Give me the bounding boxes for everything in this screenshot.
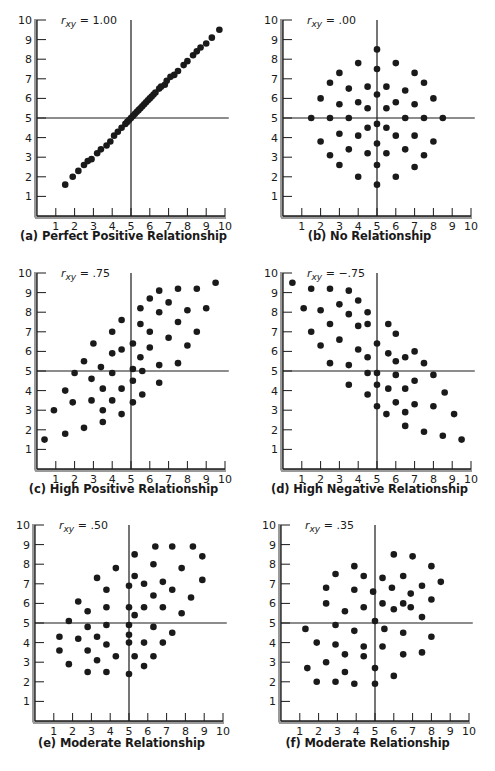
data-point [141,639,148,646]
panel-d: 1234567891012345678910rxy = −.75 (d) Hig… [246,253,493,510]
data-point [351,680,358,687]
data-point [327,115,334,122]
data-point [372,665,379,672]
data-point [94,657,101,664]
data-point [75,635,82,642]
data-point [391,606,398,613]
data-point [364,391,371,398]
panel-a: 1234567891012345678910rxy = 1.00 (a) Per… [0,0,247,257]
data-point [336,130,343,137]
data-point [428,596,435,603]
data-point [118,411,125,418]
data-point [383,83,390,90]
panel-b: 1234567891012345678910rxy = .00 (b) No R… [246,0,493,257]
data-point [393,174,400,181]
y-tick-label: 10 [18,267,32,280]
y-tick-label: 5 [271,365,278,378]
data-point [113,653,120,660]
data-point [360,653,367,660]
y-tick-label: 4 [271,132,278,145]
correlation-label: rxy = −.75 [307,267,365,282]
data-point [75,168,82,175]
panel-f: 1234567891012345678910rxy = .35 (f) Mode… [244,505,491,762]
data-point [169,543,176,550]
y-tick-label: 1 [269,695,276,708]
data-point [402,115,409,122]
correlation-label: rxy = .75 [61,267,110,282]
data-point [175,360,182,367]
y-tick-label: 6 [269,597,276,610]
y-tick-label: 5 [25,365,32,378]
scatter-plot-c: 1234567891012345678910rxy = .75 [0,253,247,510]
data-point [385,321,392,328]
data-point [156,362,163,369]
data-point [402,146,409,153]
data-point [411,401,418,408]
data-point [103,669,110,676]
data-point [98,146,105,153]
data-point [374,162,381,169]
y-tick-label: 10 [16,519,30,532]
data-point [346,287,353,294]
data-point [428,563,435,570]
data-point [184,342,191,349]
data-point [139,368,146,375]
data-point [137,305,144,312]
data-point [364,354,371,361]
data-point [336,101,343,108]
data-point [126,582,133,589]
data-point [355,174,362,181]
data-point [409,553,416,560]
data-point [113,565,120,572]
data-point [109,350,116,357]
data-point [383,411,390,418]
data-point [141,581,148,588]
data-point [88,376,95,383]
y-tick-label: 9 [25,34,32,47]
y-tick-label: 1 [271,190,278,203]
data-point [364,125,371,132]
data-point [355,346,362,353]
data-point [391,673,398,680]
y-tick-label: 8 [269,558,276,571]
data-point [411,378,418,385]
y-tick-label: 8 [25,306,32,319]
data-point [94,633,101,640]
data-point [336,70,343,77]
data-point [407,590,414,597]
data-point [364,150,371,157]
data-point [107,138,114,145]
data-point [421,360,428,367]
data-point [130,366,137,373]
data-point [203,40,210,47]
data-point [313,679,320,686]
y-tick-label: 1 [25,443,32,456]
data-point [393,399,400,406]
data-point [351,563,358,570]
data-point [141,663,148,670]
data-point [190,543,197,550]
data-point [355,323,362,330]
y-tick-label: 6 [25,345,32,358]
data-point [419,582,426,589]
data-point [81,358,88,365]
data-point [165,334,172,341]
data-point [130,399,137,406]
data-point [84,624,91,631]
data-point [374,370,381,377]
data-point [379,643,386,650]
y-tick-label: 8 [23,558,30,571]
y-tick-label: 3 [25,404,32,417]
data-point [385,385,392,392]
data-point [188,594,195,601]
y-tick-label: 7 [25,73,32,86]
y-tick-label: 6 [271,92,278,105]
data-point [381,626,388,633]
data-point [66,618,73,625]
data-point [184,58,191,65]
y-tick-label: 10 [264,14,278,27]
scatter-plot-d: 1234567891012345678910rxy = −.75 [246,253,493,510]
data-point [304,665,311,672]
data-point [342,608,349,615]
data-point [407,604,414,611]
